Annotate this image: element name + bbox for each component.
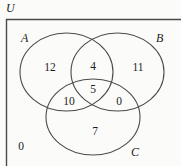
region-count-b-only: 11 (132, 62, 143, 74)
universe-label: U (6, 2, 15, 14)
region-count-a-and-b: 4 (90, 61, 96, 73)
region-count-outside: 0 (18, 141, 24, 153)
set-b-label: B (156, 32, 163, 44)
region-count-a-and-c: 10 (63, 96, 75, 108)
set-a-label: A (21, 32, 28, 44)
region-count-b-and-c: 0 (116, 96, 122, 108)
region-count-c-only: 7 (92, 126, 98, 138)
venn-diagram-figure: U A B C 12 4 11 5 10 0 7 0 (0, 0, 181, 166)
region-count-a-b-c: 5 (90, 84, 96, 96)
set-c-label: C (131, 146, 139, 158)
region-count-a-only: 12 (44, 62, 56, 74)
